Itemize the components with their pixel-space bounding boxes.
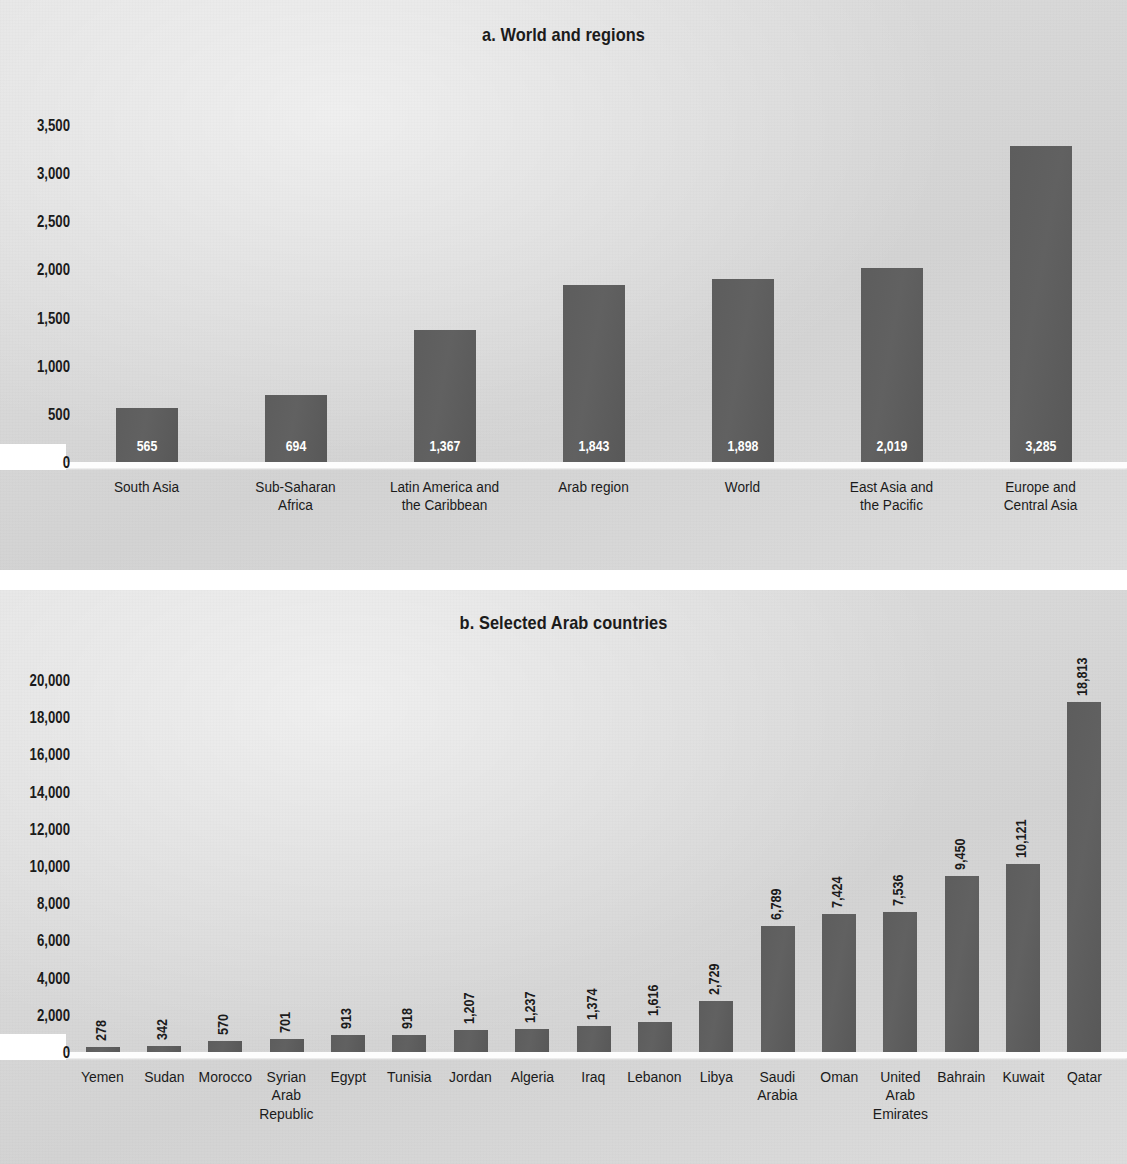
bar-value-label: 2,019: [866, 437, 917, 454]
bar[interactable]: 342: [147, 1046, 181, 1052]
y-axis-tick-label: 12,000: [20, 821, 70, 838]
bar-column[interactable]: 342: [147, 680, 181, 1052]
y-axis-tick-label: 2,000: [20, 261, 70, 278]
bar-column[interactable]: 3,285: [1010, 125, 1072, 462]
bar[interactable]: 1,237: [515, 1029, 549, 1052]
bar[interactable]: 2,729: [699, 1001, 733, 1052]
bar-column[interactable]: 694: [265, 125, 327, 462]
bar[interactable]: 1,367: [414, 330, 476, 462]
bar-column[interactable]: 1,237: [515, 680, 549, 1052]
y-axis-tick-label: 20,000: [20, 672, 70, 689]
bar-column[interactable]: 9,450: [945, 680, 979, 1052]
bar-value-label: 6,789: [767, 888, 784, 920]
bar[interactable]: 1,207: [454, 1030, 488, 1052]
bar[interactable]: 9,450: [945, 876, 979, 1052]
bar-value-label: 1,237: [521, 991, 538, 1023]
x-axis-category-label: Oman: [808, 1068, 870, 1086]
bar[interactable]: 18,813: [1067, 702, 1101, 1052]
bar-value-label: 3,285: [1015, 437, 1066, 454]
bar-column[interactable]: 18,813: [1067, 680, 1101, 1052]
x-axis-category-label: Arab region: [528, 478, 659, 496]
y-axis-tick-label: 0: [20, 1044, 70, 1061]
bar-column[interactable]: 7,536: [883, 680, 917, 1052]
bar-column[interactable]: 570: [208, 680, 242, 1052]
bar-value-label: 342: [153, 1019, 170, 1040]
bar-value-label: 918: [398, 1008, 415, 1029]
y-axis-tick-label: 8,000: [20, 895, 70, 912]
bar[interactable]: 570: [208, 1041, 242, 1052]
bar-value-label: 1,616: [644, 984, 661, 1016]
x-axis-category-label: Iraq: [563, 1068, 625, 1086]
y-axis-tick-label: 4,000: [20, 970, 70, 987]
y-axis-tick-label: 1,000: [20, 358, 70, 375]
bar-column[interactable]: 1,616: [638, 680, 672, 1052]
x-axis-category-label: Qatar: [1053, 1068, 1115, 1086]
y-axis-b: 20,00018,00016,00014,00012,00010,0008,00…: [0, 590, 70, 1164]
bar-value-label: 18,813: [1073, 658, 1090, 697]
x-axis-category-label: Europe and Central Asia: [975, 478, 1106, 515]
bar[interactable]: 913: [331, 1035, 365, 1052]
x-axis-category-label: Egypt: [317, 1068, 379, 1086]
x-axis-category-label: Libya: [685, 1068, 747, 1086]
bar-value-label: 278: [92, 1020, 109, 1041]
bar[interactable]: 1,843: [563, 285, 625, 462]
bar[interactable]: 701: [270, 1039, 304, 1052]
x-axis-category-label: Lebanon: [624, 1068, 686, 1086]
bar-value-label: 1,367: [419, 437, 470, 454]
bar-value-label: 1,843: [568, 437, 619, 454]
bar[interactable]: 1,898: [712, 279, 774, 462]
bar[interactable]: 6,789: [761, 926, 795, 1052]
x-axis-categories-b: YemenSudanMoroccoSyrian Arab RepublicEgy…: [72, 1068, 1115, 1158]
y-axis-tick-label: 1,500: [20, 310, 70, 327]
bar-column[interactable]: 701: [270, 680, 304, 1052]
bar-column[interactable]: 10,121: [1006, 680, 1040, 1052]
bar[interactable]: 694: [265, 395, 327, 462]
bar-column[interactable]: 1,898: [712, 125, 774, 462]
bar[interactable]: 2,019: [861, 268, 923, 462]
bar-column[interactable]: 1,843: [563, 125, 625, 462]
bar-value-label: 10,121: [1012, 819, 1029, 858]
bar-column[interactable]: 7,424: [822, 680, 856, 1052]
bar[interactable]: 278: [86, 1047, 120, 1052]
bar[interactable]: 7,536: [883, 912, 917, 1052]
bar-value-label: 565: [121, 437, 172, 454]
y-axis-tick-label: 3,500: [20, 117, 70, 134]
plot-area-a: 5656941,3671,8431,8982,0193,285: [72, 125, 1115, 462]
x-axis-category-label: Syrian Arab Republic: [256, 1068, 318, 1123]
bar-value-label: 913: [337, 1008, 354, 1029]
bar-value-label: 570: [214, 1014, 231, 1035]
axis-baseline-a: [64, 462, 1127, 468]
bar-column[interactable]: 2,729: [699, 680, 733, 1052]
y-axis-tick-label: 2,000: [20, 1007, 70, 1024]
bar[interactable]: 565: [116, 408, 178, 462]
bar[interactable]: 10,121: [1006, 864, 1040, 1052]
chart-panel-selected-arab-countries: 20,00018,00016,00014,00012,00010,0008,00…: [0, 590, 1127, 1164]
bar-column[interactable]: 2,019: [861, 125, 923, 462]
bar-column[interactable]: 1,367: [414, 125, 476, 462]
bar-column[interactable]: 918: [392, 680, 426, 1052]
x-axis-category-label: Yemen: [72, 1068, 134, 1086]
bar[interactable]: 7,424: [822, 914, 856, 1052]
bar-value-label: 1,898: [717, 437, 768, 454]
bar-column[interactable]: 6,789: [761, 680, 795, 1052]
bar-column[interactable]: 1,207: [454, 680, 488, 1052]
y-axis-tick-label: 10,000: [20, 858, 70, 875]
chart-title-a: a. World and regions: [79, 24, 1048, 46]
bar-value-label: 1,374: [583, 989, 600, 1021]
x-axis-category-label: World: [677, 478, 808, 496]
bar-column[interactable]: 913: [331, 680, 365, 1052]
chart-title-b: b. Selected Arab countries: [79, 612, 1048, 634]
x-axis-category-label: Bahrain: [931, 1068, 993, 1086]
bar[interactable]: 1,374: [577, 1026, 611, 1052]
bar[interactable]: 1,616: [638, 1022, 672, 1052]
axis-baseline-b: [64, 1052, 1127, 1058]
bar-value-label: 1,207: [460, 992, 477, 1024]
x-axis-category-label: Morocco: [194, 1068, 256, 1086]
bar-column[interactable]: 1,374: [577, 680, 611, 1052]
y-axis-tick-label: 6,000: [20, 932, 70, 949]
bar[interactable]: 918: [392, 1035, 426, 1052]
bar-column[interactable]: 278: [86, 680, 120, 1052]
bar-column[interactable]: 565: [116, 125, 178, 462]
bar[interactable]: 3,285: [1010, 146, 1072, 462]
bar-value-label: 2,729: [705, 964, 722, 996]
